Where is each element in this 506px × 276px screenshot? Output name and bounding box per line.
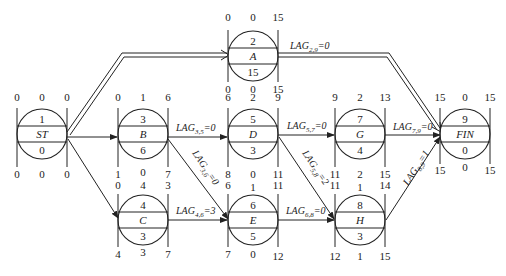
node-C: 4 C 3 0 4 3 4 3 7 bbox=[115, 179, 171, 260]
node-name: E bbox=[249, 214, 257, 226]
node-ef: 3 bbox=[165, 179, 171, 191]
node-duration: 4 bbox=[357, 144, 363, 156]
node-name: ST bbox=[36, 128, 49, 140]
node-ef: 14 bbox=[380, 179, 392, 191]
node-name: B bbox=[140, 128, 147, 140]
node-ef: 13 bbox=[380, 91, 392, 103]
node-es: 15 bbox=[435, 91, 447, 103]
node-ls: 15 bbox=[435, 164, 447, 176]
node-ff: 1 bbox=[357, 250, 363, 262]
node-ff: 0 bbox=[140, 166, 146, 178]
node-id: 7 bbox=[357, 113, 363, 125]
node-tf: 0 bbox=[462, 91, 468, 103]
node-ef: 9 bbox=[275, 91, 281, 103]
node-tf: 1 bbox=[357, 181, 363, 193]
node-ls: 7 bbox=[225, 248, 231, 260]
node-ef: 15 bbox=[485, 91, 497, 103]
network-diagram: LAG2,9=0 LAG3,5=0 LAG3,6=0 LAG4,6=3 LAG5… bbox=[0, 0, 506, 276]
node-ef: 11 bbox=[273, 179, 284, 191]
node-E: 6 E 5 6 1 11 7 0 12 bbox=[225, 179, 283, 262]
node-duration: 3 bbox=[140, 230, 146, 242]
lag-label-5-7: LAG5,7=0 bbox=[286, 120, 326, 134]
edge-1-4 bbox=[68, 139, 118, 218]
node-duration: 6 bbox=[140, 144, 146, 156]
node-FIN: 9 FIN 0 15 0 15 15 0 15 bbox=[435, 91, 497, 176]
node-es: 0 bbox=[115, 91, 121, 103]
node-es: 11 bbox=[330, 179, 341, 191]
lag-labels: LAG2,9=0 LAG3,5=0 LAG3,6=0 LAG4,6=3 LAG5… bbox=[175, 40, 434, 219]
node-name: FIN bbox=[455, 128, 474, 140]
node-tf: 2 bbox=[250, 91, 256, 103]
lag-label-5-8: LAG5,8=2 bbox=[297, 147, 331, 188]
lag-label-6-8: LAG6,8=0 bbox=[285, 205, 325, 219]
node-name: H bbox=[355, 214, 365, 226]
node-es: 0 bbox=[115, 179, 121, 191]
node-es: 0 bbox=[225, 11, 231, 23]
lag-label-4-6: LAG4,6=3 bbox=[175, 205, 215, 219]
node-lf: 0 bbox=[64, 168, 70, 180]
node-ff: 2 bbox=[357, 168, 363, 180]
lag-label-3-6: LAG3,6=0 bbox=[187, 147, 221, 188]
node-id: 5 bbox=[250, 113, 256, 125]
node-ls: 4 bbox=[115, 248, 121, 260]
node-tf: 2 bbox=[357, 91, 363, 103]
node-ef: 0 bbox=[64, 91, 70, 103]
node-id: 8 bbox=[357, 199, 363, 211]
node-tf: 0 bbox=[39, 91, 45, 103]
node-ff: 0 bbox=[250, 248, 256, 260]
node-lf: 15 bbox=[485, 164, 497, 176]
node-ef: 15 bbox=[273, 11, 285, 23]
lag-label-8-9: LAG8,9=1 bbox=[400, 148, 434, 190]
node-lf: 7 bbox=[165, 248, 171, 260]
node-id: 9 bbox=[462, 113, 468, 125]
node-es: 6 bbox=[225, 179, 231, 191]
node-tf: 1 bbox=[250, 181, 256, 193]
node-duration: 0 bbox=[39, 144, 45, 156]
node-tf: 1 bbox=[140, 91, 146, 103]
lag-label-2-9: LAG2,9=0 bbox=[289, 40, 329, 54]
node-A: 2 A 15 0 0 15 0 0 15 bbox=[225, 11, 284, 95]
node-id: 3 bbox=[140, 113, 146, 125]
node-ls: 0 bbox=[14, 168, 20, 180]
node-ff: 0 bbox=[250, 168, 256, 180]
node-es: 9 bbox=[332, 91, 338, 103]
node-ff: 0 bbox=[39, 168, 45, 180]
node-lf: 15 bbox=[380, 250, 392, 262]
node-duration: 15 bbox=[248, 66, 260, 78]
node-ST: 1 ST 0 0 0 0 0 0 0 bbox=[14, 91, 70, 180]
node-name: A bbox=[249, 50, 257, 62]
node-duration: 5 bbox=[250, 230, 256, 242]
node-id: 4 bbox=[140, 199, 146, 211]
node-D: 5 D 3 6 2 9 8 0 11 bbox=[225, 91, 283, 180]
node-es: 6 bbox=[225, 91, 231, 103]
node-name: G bbox=[356, 128, 364, 140]
node-ff: 0 bbox=[462, 161, 468, 173]
node-es: 0 bbox=[14, 91, 20, 103]
lag-label-7-9: LAG7,9=0 bbox=[392, 121, 432, 135]
node-G: 7 G 4 9 2 13 11 2 15 bbox=[330, 91, 391, 180]
node-name: D bbox=[248, 128, 257, 140]
node-id: 6 bbox=[250, 199, 256, 211]
node-duration: 0 bbox=[462, 144, 468, 156]
node-ls: 12 bbox=[330, 250, 341, 262]
node-H: 8 H 3 11 1 14 12 1 15 bbox=[330, 179, 392, 262]
node-name: C bbox=[139, 214, 147, 226]
node-tf: 4 bbox=[140, 179, 146, 191]
node-lf: 12 bbox=[273, 250, 284, 262]
lag-label-3-5: LAG3,5=0 bbox=[175, 122, 215, 136]
node-B: 3 B 6 0 1 6 1 0 7 bbox=[115, 91, 171, 180]
node-id: 1 bbox=[39, 113, 45, 125]
node-tf: 0 bbox=[250, 11, 256, 23]
node-duration: 3 bbox=[357, 230, 363, 242]
node-ff: 3 bbox=[140, 246, 146, 258]
node-id: 2 bbox=[250, 35, 256, 47]
node-duration: 3 bbox=[250, 144, 256, 156]
node-ef: 6 bbox=[165, 91, 171, 103]
